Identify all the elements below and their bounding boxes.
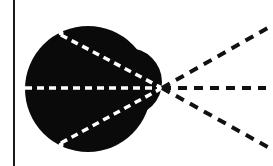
- ray-diagram: [0, 0, 273, 166]
